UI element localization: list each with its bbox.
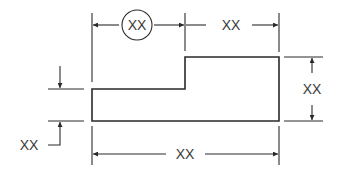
dimension-label: XX — [222, 17, 241, 33]
dimension-label: XX — [303, 81, 322, 97]
dimensioned-drawing: XX XX XX XX XX — [0, 0, 338, 177]
dimension-top-left-circled: XX — [93, 10, 184, 40]
dimension-label: XX — [20, 137, 39, 153]
dimension-label: XX — [128, 17, 147, 33]
dimension-left-step-height: XX — [20, 66, 84, 153]
part-outline — [92, 57, 279, 121]
dimension-top-right: XX — [186, 17, 278, 33]
dimension-bottom-width: XX — [92, 126, 279, 165]
dimension-label: XX — [176, 146, 195, 162]
dimension-right-height: XX — [284, 57, 323, 121]
